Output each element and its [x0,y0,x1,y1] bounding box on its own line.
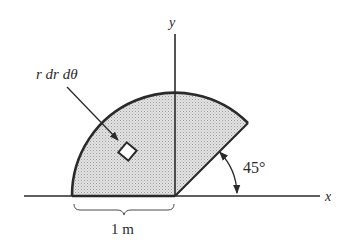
shaded-sector-region [72,93,248,196]
y-axis-label: y [167,15,176,30]
angle-45-arc [220,152,237,193]
angle-label: 45° [243,159,265,176]
radius-brace [74,204,174,215]
x-axis-label: x [324,189,332,204]
radius-label: 1 m [111,221,134,237]
polar-area-diagram: r dr dθ y x 45° 1 m [0,0,348,244]
element-label: r dr dθ [36,66,78,82]
